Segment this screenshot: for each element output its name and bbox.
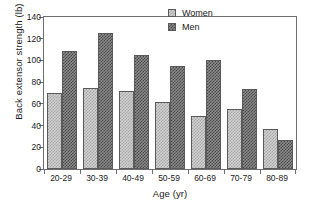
x-axis-tick-label: 50-59 <box>158 173 180 183</box>
bar-men-30-39 <box>98 33 113 169</box>
legend-entry-women: Women <box>168 6 213 20</box>
x-axis-title: Age (yr) <box>43 188 297 199</box>
bar-men-20-29 <box>62 51 77 169</box>
y-axis-tick-label: 20 <box>32 142 41 152</box>
x-axis-tick <box>80 169 81 174</box>
y-axis-tick-label: 60 <box>32 99 41 109</box>
y-axis-tick-label: 40 <box>32 121 41 131</box>
legend-swatch-women-icon <box>168 9 176 17</box>
bar-women-50-59 <box>155 102 170 169</box>
y-axis-title: Back extensor strength (lb) <box>13 0 24 142</box>
bar-women-60-69 <box>191 116 206 169</box>
x-axis-tick-label: 80-89 <box>266 173 288 183</box>
y-axis-tick-label: 100 <box>27 55 41 65</box>
y-axis-tick-label: 80 <box>32 77 41 87</box>
legend-swatch-men-icon <box>168 23 176 31</box>
x-axis-tick-label: 40-49 <box>122 173 144 183</box>
x-axis-tick-label: 70-79 <box>230 173 252 183</box>
x-axis-tick-label: 30-39 <box>86 173 108 183</box>
bar-men-80-89 <box>278 140 293 169</box>
bar-men-60-69 <box>206 60 221 169</box>
chart-legend: Women Men <box>168 6 213 34</box>
x-axis-tick-label: 20-29 <box>50 173 72 183</box>
plot-canvas: 020406080100120140 <box>44 17 296 169</box>
bar-women-70-79 <box>227 109 242 169</box>
bar-men-40-49 <box>134 55 149 169</box>
x-axis-tick <box>152 169 153 174</box>
plot-area: 020406080100120140 <box>43 16 297 170</box>
bar-women-20-29 <box>47 93 62 169</box>
y-axis-tick-label: 140 <box>27 12 41 22</box>
legend-entry-men: Men <box>168 20 213 34</box>
bar-men-70-79 <box>242 89 257 169</box>
x-axis-tick <box>295 169 296 174</box>
bar-women-40-49 <box>119 91 134 169</box>
legend-label-women: Women <box>182 8 213 18</box>
x-axis-tick <box>260 169 261 174</box>
bar-women-80-89 <box>263 129 278 169</box>
y-axis-tick-label: 120 <box>27 34 41 44</box>
bar-women-30-39 <box>83 88 98 169</box>
x-axis-tick <box>224 169 225 174</box>
x-axis-tick <box>116 169 117 174</box>
x-axis-tick <box>188 169 189 174</box>
x-axis-tick <box>44 169 45 174</box>
bar-chart-figure: Back extensor strength (lb) 020406080100… <box>0 0 313 207</box>
legend-label-men: Men <box>182 22 200 32</box>
y-axis-tick-label: 0 <box>36 164 41 174</box>
bar-men-50-59 <box>170 66 185 169</box>
x-axis-tick-label: 60-69 <box>194 173 216 183</box>
